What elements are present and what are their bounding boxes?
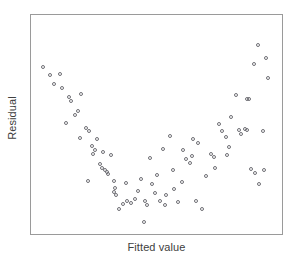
data-point (227, 145, 231, 149)
y-axis-label-text: Residual (6, 96, 18, 140)
data-point (48, 73, 52, 77)
data-point (266, 76, 270, 80)
data-point (220, 129, 224, 133)
data-points-layer (31, 15, 282, 234)
data-point (172, 187, 176, 191)
data-point (168, 134, 172, 138)
y-axis-label: Residual (0, 0, 24, 235)
data-point (114, 193, 118, 197)
data-point (103, 168, 107, 172)
data-point (200, 207, 204, 211)
data-point (257, 182, 261, 186)
data-point (252, 62, 256, 66)
data-point (153, 191, 157, 195)
data-point (86, 179, 90, 183)
data-point (204, 174, 208, 178)
data-point (161, 147, 165, 151)
data-point (256, 43, 260, 47)
scatter-plot-figure: Residual Fitted value (0, 0, 301, 263)
data-point (194, 199, 198, 203)
plot-frame (30, 14, 283, 235)
data-point (69, 99, 73, 103)
data-point (91, 152, 95, 156)
data-point (224, 135, 228, 139)
data-point (245, 128, 249, 132)
data-point (176, 200, 180, 204)
data-point (264, 56, 268, 60)
data-point (262, 168, 266, 172)
data-point (234, 93, 238, 97)
data-point (253, 171, 257, 175)
data-point (106, 172, 110, 176)
data-point (225, 153, 229, 157)
data-point (139, 177, 143, 181)
data-point (145, 203, 149, 207)
data-point (117, 207, 121, 211)
data-point (124, 181, 128, 185)
data-point (164, 193, 168, 197)
data-point (229, 115, 233, 119)
data-point (52, 82, 56, 86)
data-point (136, 189, 140, 193)
data-point (188, 161, 192, 165)
data-point (261, 129, 265, 133)
data-point (217, 122, 221, 126)
data-point (213, 166, 217, 170)
data-point (184, 157, 188, 161)
data-point (191, 137, 195, 141)
data-point (148, 156, 152, 160)
data-point (129, 201, 133, 205)
data-point (87, 129, 91, 133)
data-point (41, 65, 45, 69)
data-point (212, 155, 216, 159)
x-axis-label: Fitted value (30, 241, 283, 253)
data-point (95, 137, 99, 141)
data-point (181, 148, 185, 152)
data-point (163, 203, 167, 207)
data-point (158, 199, 162, 203)
data-point (73, 113, 77, 117)
data-point (64, 121, 68, 125)
data-point (133, 197, 137, 201)
data-point (142, 220, 146, 224)
data-point (121, 202, 125, 206)
data-point (79, 92, 83, 96)
data-point (150, 182, 154, 186)
data-point (112, 179, 116, 183)
data-point (171, 168, 175, 172)
data-point (180, 180, 184, 184)
data-point (60, 86, 64, 90)
data-point (196, 141, 200, 145)
data-point (239, 132, 243, 136)
data-point (101, 150, 105, 154)
data-point (78, 136, 82, 140)
data-point (109, 153, 113, 157)
data-point (155, 173, 159, 177)
data-point (58, 72, 62, 76)
data-point (190, 154, 194, 158)
data-point (237, 128, 241, 132)
